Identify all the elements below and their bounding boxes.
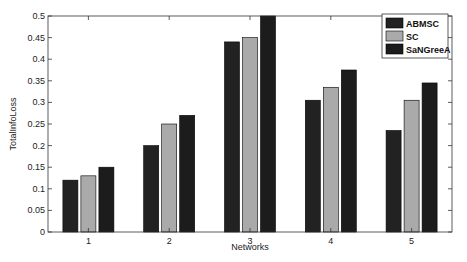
bar-abmsc-1 (63, 180, 78, 232)
x-tick-label: 4 (328, 236, 333, 246)
y-tick-label: 0.5 (32, 11, 45, 21)
bar-group-3 (225, 16, 276, 232)
bar-sangreea-1 (99, 167, 114, 232)
y-tick-label: 0 (40, 227, 45, 237)
bar-sc-3 (243, 38, 258, 232)
bar-sc-1 (81, 176, 96, 232)
legend-swatch-sangreea (386, 44, 403, 54)
x-tick-label: 5 (409, 236, 414, 246)
bar-abmsc-5 (386, 130, 401, 232)
legend-swatch-abmsc (386, 18, 403, 28)
bar-chart: 00.050.10.150.20.250.30.350.40.450.51234… (0, 0, 467, 262)
bar-sangreea-3 (261, 16, 276, 232)
y-tick-label: 0.3 (32, 97, 45, 107)
bar-sangreea-2 (180, 115, 195, 232)
x-axis-label: Networks (231, 242, 269, 252)
y-tick-label: 0.35 (27, 76, 45, 86)
bar-abmsc-3 (225, 42, 240, 232)
y-tick-label: 0.15 (27, 162, 45, 172)
x-tick-label: 1 (86, 236, 91, 246)
y-tick-label: 0.45 (27, 33, 45, 43)
y-axis-label: TotalInfoLoss (8, 97, 18, 151)
y-tick-label: 0.2 (32, 141, 45, 151)
legend-label-abmsc: ABMSC (406, 19, 439, 29)
bar-sc-5 (404, 100, 419, 232)
legend: ABMSCSCSaNGreeA (382, 14, 451, 58)
bar-abmsc-4 (305, 100, 320, 232)
legend-swatch-sc (386, 31, 403, 41)
bar-sc-2 (162, 124, 177, 232)
legend-label-sangreea: SaNGreeA (406, 45, 451, 55)
bar-sc-4 (323, 87, 338, 232)
y-tick-label: 0.4 (32, 54, 45, 64)
bar-abmsc-2 (144, 146, 159, 232)
x-tick-label: 2 (167, 236, 172, 246)
y-tick-label: 0.25 (27, 119, 45, 129)
bar-sangreea-4 (341, 70, 356, 232)
bar-sangreea-5 (422, 83, 437, 232)
y-tick-label: 0.05 (27, 205, 45, 215)
y-tick-label: 0.1 (32, 184, 45, 194)
legend-label-sc: SC (406, 32, 419, 42)
